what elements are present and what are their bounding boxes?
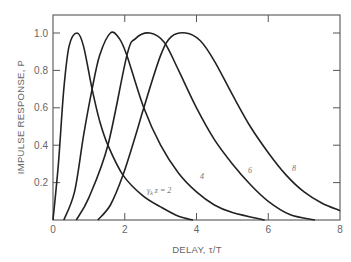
impulse-response-chart: 0.20.40.60.81.002468 γk z = 2468 IMPULSE…	[0, 0, 351, 262]
y-tick-label: 0.4	[34, 140, 48, 151]
curve-label: 4	[200, 172, 204, 181]
y-tick-label: 0.2	[34, 177, 48, 188]
x-tick-label: 2	[122, 224, 128, 235]
curve-label: 6	[248, 166, 252, 175]
curve-z-8	[98, 33, 340, 220]
x-tick-label: 6	[265, 224, 271, 235]
curve-label: 8	[292, 164, 296, 173]
x-tick-label: 8	[337, 224, 343, 235]
x-axis-title: DELAY, τ/T	[172, 244, 222, 255]
y-tick-label: 1.0	[34, 28, 48, 39]
plot-frame	[53, 15, 340, 220]
curve-labels: γk z = 2468	[147, 164, 296, 196]
y-axis-title: IMPULSE RESPONSE, P	[15, 60, 26, 174]
curve-label: γk z = 2	[147, 186, 171, 196]
curves	[53, 32, 340, 220]
y-tick-label: 0.6	[34, 102, 48, 113]
x-tick-label: 0	[50, 224, 56, 235]
y-tick-label: 0.8	[34, 65, 48, 76]
x-tick-label: 4	[194, 224, 200, 235]
axis-ticks: 0.20.40.60.81.002468	[34, 15, 343, 235]
